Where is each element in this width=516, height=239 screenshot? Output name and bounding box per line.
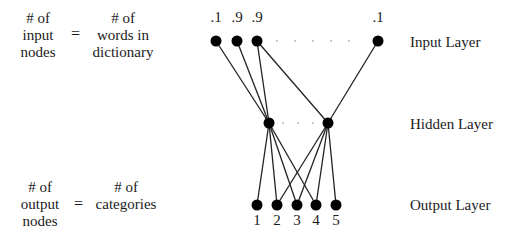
input-ellipsis xyxy=(276,40,350,42)
input-value: .9 xyxy=(251,9,262,25)
input-layer-label: Input Layer xyxy=(410,34,480,51)
edge xyxy=(328,123,336,205)
input-nodes xyxy=(211,36,384,47)
input-node xyxy=(232,36,243,47)
output-node xyxy=(292,200,303,211)
input-value: .9 xyxy=(231,9,242,25)
output-node-label: 4 xyxy=(312,212,320,228)
input-value: .1 xyxy=(210,9,221,25)
output-node xyxy=(311,200,322,211)
output-node-label: 1 xyxy=(253,212,261,228)
edge xyxy=(216,41,269,123)
output-node-label: 5 xyxy=(332,212,340,228)
input-node xyxy=(211,36,222,47)
output-node xyxy=(272,200,283,211)
output-node xyxy=(331,200,342,211)
hidden-layer-label: Hidden Layer xyxy=(410,116,493,133)
hidden-output-edges xyxy=(257,123,336,205)
output-node-label: 3 xyxy=(293,212,301,228)
edge xyxy=(277,123,328,205)
hidden-node xyxy=(264,118,275,129)
edge xyxy=(316,123,328,205)
output-nodes xyxy=(252,200,342,211)
output-node xyxy=(252,200,263,211)
edge xyxy=(297,123,328,205)
input-value: .1 xyxy=(372,9,383,25)
input-node xyxy=(252,36,263,47)
hidden-ellipsis xyxy=(282,122,314,124)
output-node-label: 2 xyxy=(273,212,281,228)
input-node xyxy=(373,36,384,47)
input-hidden-edges xyxy=(216,41,378,123)
output-layer-label: Output Layer xyxy=(410,197,490,214)
edge xyxy=(328,41,378,123)
hidden-node xyxy=(323,118,334,129)
edge xyxy=(257,123,269,205)
